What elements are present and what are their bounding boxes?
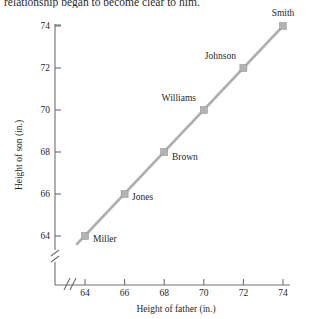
x-axis-ticks bbox=[85, 279, 283, 285]
y-tick-label-70: 70 bbox=[41, 105, 51, 115]
data-label-smith: Smith bbox=[272, 8, 295, 18]
y-axis-ticks bbox=[55, 26, 61, 236]
data-point-smith[interactable] bbox=[280, 23, 287, 30]
y-tick-label-72: 72 bbox=[41, 63, 51, 73]
scatter-chart: 74 72 70 68 66 64 64 66 68 70 72 74 Mill… bbox=[0, 0, 311, 319]
y-axis-break-icon bbox=[51, 250, 59, 256]
x-axis-title: Height of father (in.) bbox=[136, 304, 215, 315]
y-tick-label-74: 74 bbox=[41, 21, 51, 31]
y-axis-title: Height of son (in.) bbox=[14, 120, 25, 190]
x-tick-label-68: 68 bbox=[159, 288, 169, 298]
data-label-jones: Jones bbox=[132, 192, 153, 202]
y-tick-label-66: 66 bbox=[41, 189, 51, 199]
data-point-brown[interactable] bbox=[161, 149, 168, 156]
trend-line bbox=[77, 26, 283, 244]
x-tick-label-66: 66 bbox=[120, 288, 130, 298]
data-point-williams[interactable] bbox=[200, 107, 207, 114]
data-label-miller: Miller bbox=[93, 234, 118, 244]
x-axis-break-icon bbox=[64, 278, 70, 290]
x-tick-label-74: 74 bbox=[278, 288, 288, 298]
y-tick-label-64: 64 bbox=[41, 231, 51, 241]
y-tick-label-68: 68 bbox=[41, 147, 51, 157]
data-label-williams: Williams bbox=[162, 93, 197, 103]
x-tick-label-64: 64 bbox=[80, 288, 90, 298]
x-axis-break-icon-2 bbox=[70, 278, 76, 290]
data-label-johnson: Johnson bbox=[205, 51, 236, 61]
data-point-johnson[interactable] bbox=[240, 65, 247, 72]
data-point-miller[interactable] bbox=[82, 233, 89, 240]
data-point-jones[interactable] bbox=[121, 191, 128, 198]
y-axis-break-icon-2 bbox=[51, 256, 59, 262]
data-label-brown: Brown bbox=[172, 152, 198, 162]
x-tick-label-70: 70 bbox=[199, 288, 209, 298]
x-tick-label-72: 72 bbox=[239, 288, 249, 298]
